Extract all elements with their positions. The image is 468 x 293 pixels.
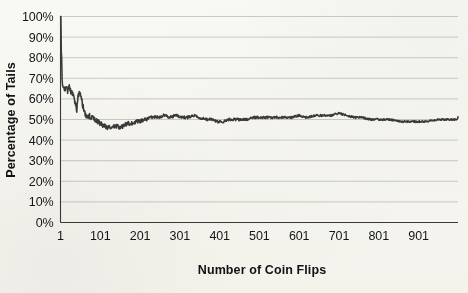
coin-flip-line-chart: 0%10%20%30%40%50%60%70%80%90%100% 110120… bbox=[0, 0, 468, 293]
y-axis-title: Percentage of Tails bbox=[4, 62, 18, 178]
x-tick-label: 801 bbox=[369, 229, 390, 243]
x-tick-label: 1 bbox=[57, 229, 64, 243]
series-line-percentage-of-tails bbox=[61, 17, 459, 130]
chart-figure: 0%10%20%30%40%50%60%70%80%90%100% 110120… bbox=[0, 0, 468, 293]
y-tick-label: 10% bbox=[29, 195, 54, 209]
y-gridlines bbox=[61, 17, 459, 223]
y-tick-label: 90% bbox=[29, 31, 54, 45]
x-axis-title: Number of Coin Flips bbox=[198, 263, 326, 277]
x-tick-label: 101 bbox=[90, 229, 111, 243]
y-tick-label: 60% bbox=[29, 92, 54, 106]
x-tick-label: 901 bbox=[408, 229, 429, 243]
y-tick-label: 0% bbox=[36, 216, 54, 230]
x-tick-label: 701 bbox=[329, 229, 350, 243]
x-tick-label: 601 bbox=[289, 229, 310, 243]
y-tick-label: 20% bbox=[29, 175, 54, 189]
y-tick-label: 30% bbox=[29, 154, 54, 168]
x-tick-label: 301 bbox=[170, 229, 191, 243]
y-tick-label: 70% bbox=[29, 72, 54, 86]
x-tick-labels: 1101201301401501601701801901 bbox=[57, 229, 429, 243]
y-tick-label: 40% bbox=[29, 134, 54, 148]
x-tick-label: 401 bbox=[209, 229, 230, 243]
y-tick-labels: 0%10%20%30%40%50%60%70%80%90%100% bbox=[22, 10, 54, 230]
y-tick-label: 80% bbox=[29, 51, 54, 65]
y-tick-label: 100% bbox=[22, 10, 54, 24]
y-tick-label: 50% bbox=[29, 113, 54, 127]
x-tick-label: 201 bbox=[130, 229, 151, 243]
x-tick-label: 501 bbox=[249, 229, 270, 243]
